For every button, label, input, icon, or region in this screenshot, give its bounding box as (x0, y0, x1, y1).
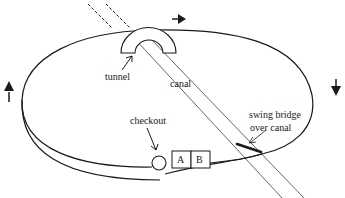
checkout-label: checkout (130, 115, 166, 126)
swing-bridge-label-line1: swing bridge (249, 109, 302, 120)
arrow-up-icon (4, 81, 14, 102)
swing-bridge (237, 144, 261, 152)
car-b-label: B (196, 154, 203, 165)
arrow-down-icon (331, 79, 341, 96)
swing-bridge-label-line2: over canal (250, 122, 292, 133)
checkout-pointer-arrow (147, 128, 158, 150)
arrow-right-icon (172, 14, 186, 24)
canal-label: canal (170, 78, 191, 89)
oval-track-bottom (22, 100, 152, 167)
canal-dashed-extension (88, 4, 130, 28)
track-diagram: tunnel canal checkout A B swing bridge o… (0, 0, 345, 198)
car-a-label: A (177, 154, 185, 165)
tunnel-label: tunnel (105, 71, 130, 82)
tunnel-pointer-arrow (122, 56, 132, 70)
checkout-circle (152, 156, 166, 170)
